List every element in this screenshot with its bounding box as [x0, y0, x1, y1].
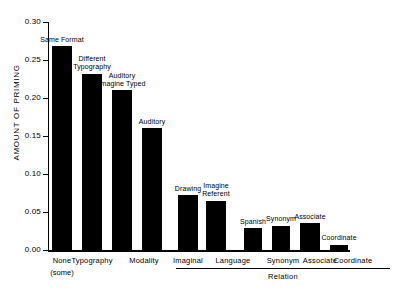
- y-axis-line: [48, 22, 49, 250]
- bar-value-label: Associate: [270, 213, 350, 221]
- y-tick: [43, 250, 48, 251]
- bar-value-label: Auditory: [112, 118, 192, 126]
- bar-value-label: DifferentTypography: [52, 55, 132, 71]
- y-tick-label: 0.05: [25, 208, 41, 216]
- y-tick: [43, 136, 48, 137]
- bar: [82, 74, 102, 250]
- bar: [330, 245, 348, 250]
- bar: [272, 226, 290, 250]
- bar-value-label: Same Format: [22, 36, 102, 44]
- relation-group-bracket: [176, 268, 390, 269]
- bar: [112, 90, 132, 250]
- y-tick-label: 0.30: [25, 18, 41, 26]
- y-tick: [43, 60, 48, 61]
- bar-value-label: AuditoryImagine Typed: [82, 72, 162, 88]
- y-tick-label: 0.15: [25, 132, 41, 140]
- x-axis-line: [48, 250, 350, 252]
- y-tick-label: 0.10: [25, 170, 41, 178]
- bar: [244, 228, 262, 250]
- y-tick-label: 0.00: [25, 246, 41, 254]
- relation-group-title: Relation: [238, 272, 328, 281]
- bar: [178, 195, 198, 250]
- y-tick-label: 0.20: [25, 94, 41, 102]
- x-category-label: Coordinate: [308, 256, 394, 265]
- y-axis-title: AMOUNT OF PRIMING: [12, 53, 21, 173]
- y-tick: [43, 98, 48, 99]
- x-category-sublabel: (some): [17, 268, 107, 277]
- bar-value-label: ImagineReferent: [176, 182, 256, 198]
- bar-value-label: Coordinate: [299, 234, 379, 242]
- y-tick-label: 0.25: [25, 56, 41, 64]
- y-tick: [43, 174, 48, 175]
- bar: [52, 46, 72, 250]
- plot-area: 0.300.250.200.150.100.050.00 Same Format…: [48, 22, 350, 250]
- y-tick: [43, 22, 48, 23]
- y-tick: [43, 212, 48, 213]
